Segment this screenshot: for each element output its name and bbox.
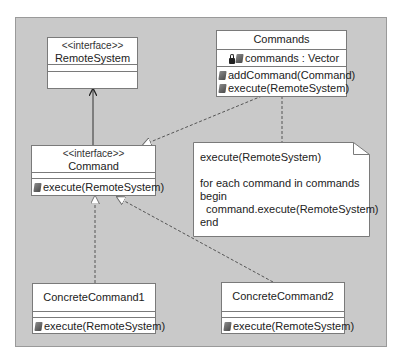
note-line: begin	[200, 190, 379, 203]
operation-row[interactable]: execute(RemoteSystem)	[222, 320, 344, 333]
class-concrete-command-1[interactable]: ConcreteCommand1 execute(RemoteSystem)	[32, 283, 156, 334]
operations-compartment: addCommand(Command) execute(RemoteSystem…	[217, 67, 346, 95]
operation-icon	[33, 183, 41, 192]
operation-row[interactable]: execute(RemoteSystem)	[33, 320, 155, 333]
operation-label: addCommand(Command)	[228, 69, 355, 82]
class-command[interactable]: <<interface>> Command execute(RemoteSyst…	[31, 145, 156, 196]
attributes-compartment: commands : Vector	[217, 50, 346, 67]
operation-label: execute(RemoteSystem)	[44, 320, 165, 333]
operation-icon	[34, 322, 42, 331]
stereotype-label: <<interface>>	[32, 147, 155, 160]
attribute-row[interactable]: commands : Vector	[217, 52, 346, 65]
note-line: for each command in commands	[200, 177, 379, 190]
note-line: command.execute(RemoteSystem)	[200, 203, 379, 216]
note-line	[200, 164, 379, 177]
attribute-label: commands : Vector	[245, 52, 339, 65]
class-commands[interactable]: Commands commands : Vector addCommand(Co…	[216, 30, 347, 97]
operation-label: execute(RemoteSystem)	[43, 181, 164, 194]
stereotype-label: <<interface>>	[48, 39, 137, 52]
note-line: execute(RemoteSystem)	[200, 151, 379, 164]
class-name: ConcreteCommand2	[222, 283, 344, 310]
operations-compartment: execute(RemoteSystem)	[222, 318, 344, 333]
operation-label: execute(RemoteSystem)	[233, 320, 354, 333]
class-remote-system[interactable]: <<interface>> RemoteSystem	[47, 37, 138, 89]
operation-row[interactable]: execute(RemoteSystem)	[32, 181, 155, 194]
operation-label: execute(RemoteSystem)	[228, 82, 349, 95]
attributes-compartment	[48, 65, 137, 72]
operation-icon	[223, 322, 231, 331]
note-text: execute(RemoteSystem)for each command in…	[200, 151, 379, 229]
note-line: end	[200, 216, 379, 229]
attribute-icon	[235, 54, 243, 63]
operation-row[interactable]: addCommand(Command)	[217, 69, 346, 82]
operation-icon	[218, 84, 226, 93]
lock-icon	[229, 54, 235, 64]
operations-compartment: execute(RemoteSystem)	[32, 179, 155, 194]
class-name: Commands	[217, 31, 346, 48]
class-name: Command	[32, 160, 155, 173]
class-name: RemoteSystem	[48, 52, 137, 65]
class-name: ConcreteCommand1	[33, 284, 155, 310]
uml-note[interactable]: execute(RemoteSystem)for each command in…	[193, 142, 370, 237]
operations-compartment: execute(RemoteSystem)	[33, 318, 155, 333]
class-concrete-command-2[interactable]: ConcreteCommand2 execute(RemoteSystem)	[221, 282, 345, 334]
operation-icon	[218, 71, 226, 80]
operation-row[interactable]: execute(RemoteSystem)	[217, 82, 346, 95]
